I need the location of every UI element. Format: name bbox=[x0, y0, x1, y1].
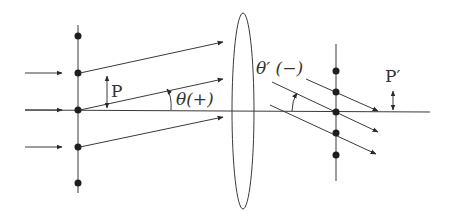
object-grating bbox=[75, 25, 82, 193]
angle-theta-prime-label: θ′ (−) bbox=[256, 58, 303, 78]
image-ray bbox=[272, 82, 378, 132]
incident-beams bbox=[25, 73, 62, 147]
image-point bbox=[333, 68, 340, 75]
angle-theta-prime-arc bbox=[292, 93, 297, 111]
image-grating bbox=[333, 44, 340, 181]
period-p-label: P bbox=[111, 81, 122, 101]
grating-point bbox=[75, 180, 82, 187]
image-point bbox=[333, 109, 340, 116]
image-point bbox=[333, 152, 340, 159]
image-point bbox=[333, 89, 340, 96]
grating-point bbox=[75, 33, 82, 40]
image-rays bbox=[270, 79, 378, 154]
image-ray bbox=[306, 79, 378, 111]
period-p-prime-label: P′ bbox=[385, 66, 400, 86]
diffracted-ray bbox=[80, 117, 223, 147]
image-point bbox=[333, 130, 340, 137]
angle-theta-arc bbox=[167, 89, 171, 110]
optics-diagram: P θ(+) θ′ (−) P′ bbox=[0, 0, 457, 223]
optical-axis bbox=[25, 110, 430, 112]
image-ray bbox=[270, 105, 376, 154]
angle-theta-label: θ(+) bbox=[176, 89, 214, 109]
diffracted-ray bbox=[80, 42, 223, 73]
